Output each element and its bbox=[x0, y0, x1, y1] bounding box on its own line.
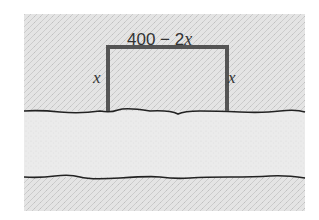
upper-field bbox=[24, 14, 305, 112]
river-band bbox=[24, 111, 305, 178]
top-side-variable: x bbox=[184, 29, 192, 49]
top-side-expression: 400 − 2 bbox=[127, 30, 184, 49]
top-side-label: 400 − 2x bbox=[127, 30, 192, 48]
right-side-label: x bbox=[228, 69, 236, 86]
diagram-canvas: 400 − 2x x x bbox=[0, 0, 319, 220]
left-side-label: x bbox=[93, 69, 101, 86]
lower-field bbox=[24, 177, 305, 211]
